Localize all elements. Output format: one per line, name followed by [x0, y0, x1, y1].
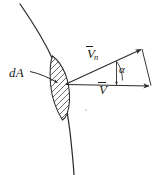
figure-container: dA Vn V α	[0, 0, 159, 175]
scan-speck	[85, 109, 87, 111]
label-angle-alpha: α	[119, 64, 125, 75]
vector-parallelogram-side	[142, 49, 151, 86]
hatch-lines	[30, 10, 86, 175]
label-area-element: dA	[9, 66, 24, 79]
velocity-vector-Vn	[66, 50, 141, 85]
label-normal-velocity: Vn	[87, 47, 98, 62]
label-velocity: V	[99, 83, 107, 96]
velocity-vector-V	[66, 85, 149, 87]
label-velocity-symbol: V	[99, 83, 107, 96]
label-normal-velocity-symbol: V	[87, 47, 95, 60]
label-angle-alpha-text: α	[119, 63, 125, 75]
label-area-element-text: dA	[9, 65, 24, 80]
area-element-dA-shape	[30, 10, 86, 175]
vector-diagram-svg	[0, 0, 159, 175]
